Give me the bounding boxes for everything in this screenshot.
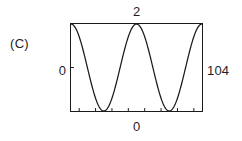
y-axis-min-tick-label: 0 (44, 63, 66, 78)
plot-area (71, 24, 202, 111)
figure-panel-c: (C) 2 0 104 0 (0, 0, 242, 141)
x-axis-max-tick-label: 2 (70, 4, 203, 19)
panel-label: (C) (10, 36, 29, 52)
plot-frame (70, 23, 203, 112)
x-axis-min-tick-label: 0 (70, 119, 203, 134)
y-axis-max-tick-label: 104 (207, 63, 229, 78)
data-curve (71, 24, 202, 111)
